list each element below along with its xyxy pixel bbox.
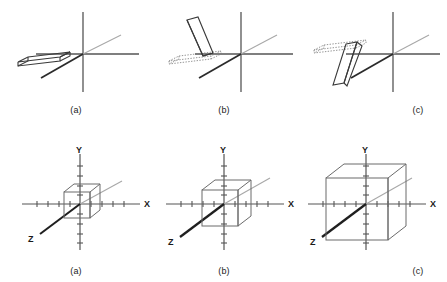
axes-top-a	[36, 12, 139, 92]
z-axis-label: Z	[168, 237, 174, 247]
x-axis-label: X	[288, 199, 294, 209]
panel-bottom-b: X Y Z	[158, 146, 300, 258]
hatched-shadow-top-c	[314, 40, 366, 53]
caption-top-b: (b)	[204, 105, 244, 115]
caption-bottom-c: (c)	[398, 266, 438, 276]
caption-bottom-a: (a)	[56, 266, 96, 276]
figure-canvas: (a) (b)	[0, 0, 447, 282]
z-axis-label: Z	[28, 234, 34, 244]
caption-bottom-b: (b)	[204, 266, 244, 276]
axes-bottom-a	[22, 154, 140, 250]
y-axis-label: Y	[220, 146, 226, 155]
y-axis-label: Y	[76, 146, 82, 155]
caption-top-a: (a)	[56, 105, 96, 115]
panel-top-c	[300, 6, 442, 98]
caption-top-c: (c)	[398, 105, 438, 115]
flap-shape-top-c	[333, 42, 362, 86]
x-axis-label: X	[430, 199, 436, 209]
x-axis-label: X	[144, 199, 150, 209]
z-axis-label: Z	[310, 237, 316, 247]
panel-top-a	[8, 6, 148, 98]
axes-bottom-b	[166, 154, 284, 250]
y-axis-label: Y	[362, 146, 368, 155]
panel-top-b	[155, 6, 295, 98]
panel-bottom-a: X Y Z	[14, 146, 156, 258]
panel-bottom-c: X Y Z	[300, 146, 444, 258]
flap-shape-top-b	[187, 17, 213, 56]
